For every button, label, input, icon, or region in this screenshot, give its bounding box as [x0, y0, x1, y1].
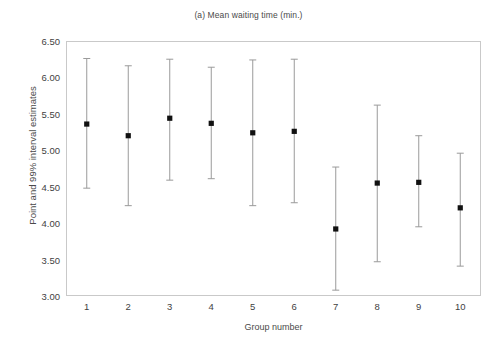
x-tick-label: 8	[362, 301, 392, 312]
x-tick-label: 3	[155, 301, 185, 312]
x-axis-title: Group number	[66, 322, 481, 332]
y-axis-tick-labels: 3.003.504.004.505.005.506.006.50	[20, 0, 60, 358]
y-tick-label: 6.50	[26, 36, 60, 47]
y-tick-label: 5.00	[26, 145, 60, 156]
x-tick-label: 4	[196, 301, 226, 312]
y-tick-label: 3.50	[26, 254, 60, 265]
x-tick-label: 9	[404, 301, 434, 312]
y-tick-label: 6.00	[26, 72, 60, 83]
x-tick-label: 2	[113, 301, 143, 312]
x-tick-label: 7	[321, 301, 351, 312]
plot-area	[66, 41, 481, 296]
y-tick-label: 3.00	[26, 291, 60, 302]
x-tick-label: 1	[72, 301, 102, 312]
x-tick-label: 5	[238, 301, 268, 312]
chart-container: (a) Mean waiting time (min.) Point and 9…	[0, 0, 497, 358]
x-tick-label: 10	[445, 301, 475, 312]
y-tick-label: 4.50	[26, 181, 60, 192]
chart-title: (a) Mean waiting time (min.)	[0, 10, 497, 20]
y-tick-label: 4.00	[26, 218, 60, 229]
y-tick-label: 5.50	[26, 108, 60, 119]
x-tick-label: 6	[279, 301, 309, 312]
